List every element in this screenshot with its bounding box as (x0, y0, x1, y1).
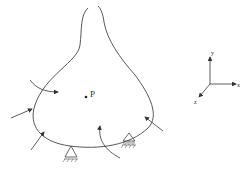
point-P-label: P (90, 89, 95, 99)
x-axis-label: x (237, 82, 240, 88)
force-arrow-left-2 (31, 132, 44, 150)
coordinate-axes: y x z (194, 50, 240, 105)
moment-arrow-left (30, 80, 58, 92)
pin-support (63, 146, 78, 162)
body-outline (33, 6, 153, 147)
moment-arrow-bottom (100, 126, 120, 158)
force-arrow-left-1 (11, 109, 32, 118)
force-arrow-right (145, 117, 163, 131)
free-body-diagram: P y x z (0, 0, 249, 177)
y-axis-label: y (211, 50, 214, 56)
z-axis-label: z (194, 99, 197, 105)
point-P (85, 96, 88, 99)
